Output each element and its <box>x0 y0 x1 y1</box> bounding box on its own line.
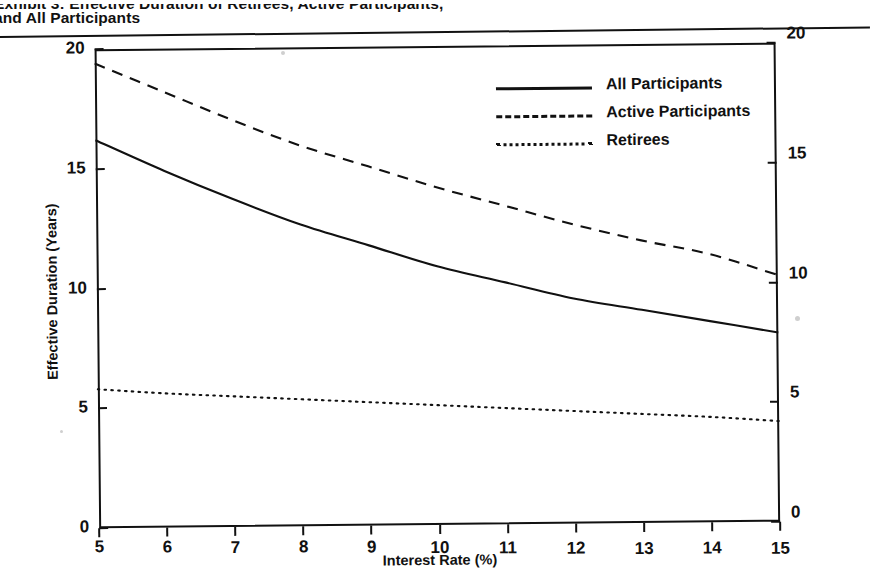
x-axis-tick <box>234 527 236 536</box>
legend-label: Active Participants <box>606 102 750 121</box>
scan-speck <box>60 430 63 433</box>
x-axis-tick <box>302 526 304 535</box>
series-line-all-participants <box>95 134 778 339</box>
series-line-retirees <box>98 383 779 428</box>
y-axis-tick-right <box>769 281 778 283</box>
x-axis-tick <box>98 528 100 537</box>
y-axis-label-left: 0 <box>49 517 89 537</box>
y-axis-tick-right <box>768 161 777 163</box>
x-axis-tick <box>779 522 781 531</box>
y-axis-tick-left <box>99 527 108 529</box>
data-curves-layer <box>0 0 855 571</box>
y-axis-label-right: 5 <box>790 382 830 402</box>
y-axis-tick-left <box>96 168 105 170</box>
x-axis-tick <box>643 523 645 532</box>
y-axis-label-left: 20 <box>44 38 84 58</box>
y-axis-label-right: 15 <box>788 143 828 163</box>
x-axis-tick <box>575 524 577 533</box>
y-axis-label-right: 0 <box>791 502 831 522</box>
x-axis-tick <box>439 525 441 534</box>
y-axis-tick-left <box>98 407 107 409</box>
y-axis-tick-left <box>95 48 104 50</box>
legend-label: All Participants <box>606 74 723 93</box>
y-axis-tick-left <box>97 288 106 290</box>
x-axis-tick <box>507 524 509 533</box>
chart-figure: 051015200510152056789101112131415 Effect… <box>0 0 855 571</box>
y-axis-label-right: 10 <box>789 263 829 283</box>
y-axis-title: Effective Duration (Years) <box>43 172 61 412</box>
scan-speck <box>795 316 800 321</box>
y-axis-tick-right <box>767 42 776 44</box>
legend-label: Retirees <box>606 131 669 150</box>
x-axis-tick <box>371 526 373 535</box>
y-axis-tick-right <box>770 401 779 403</box>
y-axis-label-right: 20 <box>786 23 826 43</box>
scan-speck <box>281 51 285 55</box>
x-axis-tick <box>166 528 168 537</box>
x-axis-tick <box>711 522 713 531</box>
